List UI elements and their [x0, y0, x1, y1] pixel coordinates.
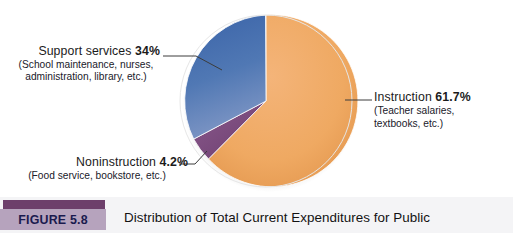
callout-noninstruction-percent: 4.2%: [160, 155, 188, 169]
figure-caption-text: Distribution of Total Current Expenditur…: [124, 210, 430, 225]
callout-noninstruction-sub-line1: (Food service, bookstore, etc.): [4, 170, 190, 182]
callout-instruction-sub-line1: (Teacher salaries,: [374, 105, 471, 118]
callout-noninstruction: Noninstruction 4.2% (Food service, books…: [4, 155, 190, 182]
callout-support-sub-line2: administration, library, etc.): [8, 71, 164, 83]
chart-plate: Support services 34% (School maintenance…: [0, 0, 513, 197]
callout-support-services: Support services 34% (School maintenance…: [8, 44, 164, 84]
figure-number-label: FIGURE 5.8: [0, 213, 106, 227]
callout-instruction: Instruction 61.7% (Teacher salaries, tex…: [374, 90, 471, 130]
callout-support-sub-line1: (School maintenance, nurses,: [8, 59, 164, 71]
figure-container: Support services 34% (School maintenance…: [0, 0, 513, 233]
callout-noninstruction-headline: Noninstruction 4.2%: [4, 155, 190, 170]
callout-instruction-headline: Instruction 61.7%: [374, 90, 471, 105]
callout-instruction-percent: 61.7%: [435, 90, 470, 104]
callout-support-headline: Support services 34%: [8, 44, 164, 59]
callout-support-percent: 34%: [135, 44, 160, 58]
figure-number-tag: FIGURE 5.8: [0, 209, 106, 230]
callout-instruction-sub-line2: textbooks, etc.): [374, 118, 471, 131]
